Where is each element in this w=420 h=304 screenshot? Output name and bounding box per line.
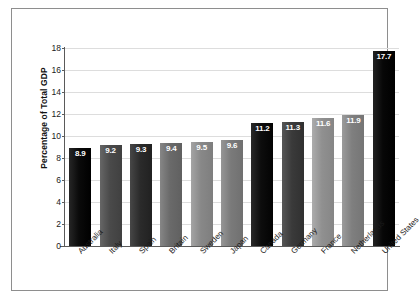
y-axis-tick-mark — [62, 180, 65, 181]
gridline — [65, 70, 399, 71]
bar-value-label: 11.9 — [342, 117, 364, 125]
y-axis-tick-label: 12 — [52, 110, 61, 119]
y-axis-tick-mark — [62, 246, 65, 247]
bar-value-label: 9.3 — [130, 146, 152, 154]
bar-value-label: 9.5 — [191, 144, 213, 152]
y-axis-tick-mark — [62, 158, 65, 159]
y-axis-tick-mark — [62, 70, 65, 71]
bar-value-label: 9.2 — [100, 147, 122, 155]
y-axis-tick-mark — [62, 136, 65, 137]
bar[interactable]: 9.5 — [191, 142, 213, 247]
y-axis-tick-label: 8 — [56, 154, 61, 163]
y-axis-tick-label: 18 — [52, 44, 61, 53]
bar-value-label: 17.7 — [373, 53, 395, 61]
y-axis-tick-mark — [62, 224, 65, 225]
y-axis-tick-label: 16 — [52, 66, 61, 75]
y-axis-tick-label: 2 — [56, 220, 61, 229]
bar[interactable]: 8.9 — [69, 148, 91, 246]
bar[interactable]: 11.2 — [251, 123, 273, 246]
y-axis-tick-label: 6 — [56, 176, 61, 185]
plot-area: 024681012141618 8.99.29.39.49.59.611.211… — [65, 48, 399, 246]
bar[interactable]: 11.6 — [312, 118, 334, 246]
gridline — [65, 48, 399, 49]
bar[interactable]: 11.3 — [282, 122, 304, 246]
y-axis-tick-label: 14 — [52, 88, 61, 97]
y-axis-tick-label: 4 — [56, 198, 61, 207]
bar[interactable]: 9.6 — [221, 140, 243, 246]
y-axis-tick-mark — [62, 114, 65, 115]
bar-value-label: 11.3 — [282, 124, 304, 132]
bar-value-label: 9.4 — [160, 145, 182, 153]
bar-value-label: 11.6 — [312, 120, 334, 128]
bar[interactable]: 11.9 — [342, 115, 364, 246]
bar-value-label: 8.9 — [69, 150, 91, 158]
bar[interactable]: 9.3 — [130, 144, 152, 246]
y-axis-tick-mark — [62, 48, 65, 49]
y-axis-tick-label: 10 — [52, 132, 61, 141]
bar-value-label: 11.2 — [251, 125, 273, 133]
gridline — [65, 92, 399, 93]
y-axis-tick-label: 0 — [56, 242, 61, 251]
y-axis-tick-mark — [62, 92, 65, 93]
chart-frame: Percentage of Total GDP 024681012141618 … — [11, 8, 388, 291]
y-axis-title: Percentage of Total GDP — [39, 43, 49, 193]
y-axis-tick-mark — [62, 202, 65, 203]
bar-value-label: 9.6 — [221, 142, 243, 150]
bar[interactable]: 17.7 — [373, 51, 395, 246]
bar[interactable]: 9.4 — [160, 143, 182, 246]
